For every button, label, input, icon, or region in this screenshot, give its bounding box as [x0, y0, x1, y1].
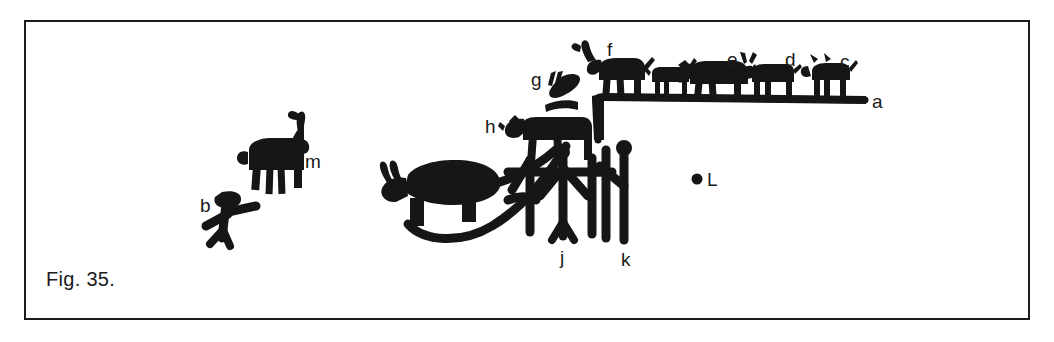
- panel-label-e: e: [727, 50, 738, 69]
- figure-border-frame: [24, 20, 1030, 320]
- figure-caption: Fig. 35.: [46, 268, 115, 291]
- panel-label-a: a: [872, 92, 883, 111]
- panel-label-k: k: [621, 250, 631, 269]
- panel-label-i: i: [419, 163, 423, 182]
- panel-label-c: c: [840, 52, 850, 71]
- figure-root: a b c d e f g h i j k L m Fig. 35.: [0, 0, 1054, 342]
- panel-label-g: g: [531, 70, 542, 89]
- panel-label-j: j: [560, 248, 564, 267]
- panel-label-d: d: [785, 50, 796, 69]
- panel-label-f: f: [607, 40, 612, 59]
- panel-label-L: L: [707, 170, 718, 189]
- panel-label-b: b: [200, 196, 211, 215]
- panel-label-h: h: [485, 117, 496, 136]
- panel-label-m: m: [305, 152, 321, 171]
